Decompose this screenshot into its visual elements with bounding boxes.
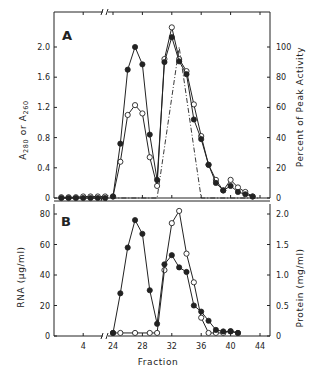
x-axis-label: Fraction (138, 357, 179, 367)
data-point (206, 330, 211, 335)
data-point (155, 183, 160, 188)
panel-b-right-ylabel: Protein (mg/ml) (295, 248, 305, 327)
x-tick-label: 28 (137, 342, 147, 351)
y-tick-label: 0 (45, 332, 50, 341)
data-point (132, 44, 137, 49)
data-point (228, 177, 233, 182)
data-point (147, 155, 152, 160)
data-point (199, 315, 204, 320)
y-tick-label: 1.2 (37, 103, 50, 112)
y-tick-label: 0.4 (37, 164, 50, 173)
y-tick-label: 20 (40, 302, 50, 311)
y-tick-label-right: 0.5 (276, 302, 289, 311)
data-point (235, 189, 240, 194)
panel-b-left-ylabel: RNA (μg/ml) (16, 246, 26, 307)
x-tick-label: 32 (167, 342, 177, 351)
panel-a-label: A (62, 28, 72, 43)
y-tick-label-right: 20 (276, 164, 286, 173)
data-point (162, 262, 167, 267)
data-point (73, 195, 78, 200)
data-point (221, 188, 226, 193)
data-point (88, 195, 93, 200)
data-point (103, 195, 108, 200)
x-tick-label: 36 (196, 342, 206, 351)
y-tick-label-right: 1.0 (276, 271, 289, 280)
data-point (228, 183, 233, 188)
x-tick-label: 4 (81, 342, 86, 351)
series-open (110, 208, 240, 335)
x-tick-label: 24 (108, 342, 118, 351)
x-tick-label: 44 (255, 342, 265, 351)
data-point (155, 321, 160, 326)
data-point (169, 253, 174, 258)
data-point (125, 67, 130, 72)
data-point (118, 291, 123, 296)
data-point (155, 330, 160, 335)
panel-a-right-ylabel: Percent of Peak Activity (295, 47, 305, 168)
data-point (110, 330, 115, 335)
plot-layer (59, 25, 260, 336)
data-point (206, 318, 211, 323)
data-point (213, 327, 218, 332)
data-point (213, 180, 218, 185)
data-point (169, 25, 174, 30)
data-point (140, 111, 145, 116)
data-point (177, 265, 182, 270)
data-point (95, 195, 100, 200)
data-point (184, 269, 189, 274)
data-point (191, 280, 196, 285)
y-tick-label-right: 0 (276, 194, 281, 203)
y-tick-label-right: 1.5 (276, 241, 289, 250)
data-point (177, 208, 182, 213)
data-point (59, 195, 64, 200)
data-point (81, 195, 86, 200)
data-point (191, 303, 196, 308)
y-tick-label: 2.0 (37, 43, 50, 52)
data-point (155, 177, 160, 182)
chromatography-figure: 00.40.81.21.62.002040608010002040608000.… (0, 0, 319, 377)
y-tick-label-right: 2.0 (276, 210, 289, 219)
data-point (206, 162, 211, 167)
data-point (199, 137, 204, 142)
series-filled (59, 35, 256, 201)
data-point (125, 245, 130, 250)
y-tick-label-right: 40 (276, 134, 286, 143)
y-tick-label: 0.8 (37, 134, 50, 143)
data-point (118, 330, 123, 335)
series-open (59, 25, 256, 200)
x-tick-label: 40 (226, 342, 236, 351)
data-point (177, 59, 182, 64)
data-point (169, 221, 174, 226)
y-tick-label: 1.6 (37, 73, 50, 82)
data-point (184, 251, 189, 256)
data-point (132, 103, 137, 108)
data-point (169, 35, 174, 40)
panel-b-label: B (61, 214, 71, 229)
data-point (147, 330, 152, 335)
series-filled (110, 218, 240, 336)
data-point (162, 60, 167, 65)
data-point (110, 194, 115, 199)
panel-a-left-ylabel: A280 or A260 (18, 100, 30, 159)
data-point (228, 329, 233, 334)
data-point (250, 194, 255, 199)
y-tick-label: 0 (45, 194, 50, 203)
y-tick-label-right: 0 (276, 332, 281, 341)
y-tick-label-right: 100 (276, 43, 291, 52)
y-tick-label-right: 80 (276, 73, 286, 82)
data-point (125, 112, 130, 117)
data-point (221, 329, 226, 334)
y-tick-label-right: 60 (276, 103, 286, 112)
data-point (147, 132, 152, 137)
data-point (235, 330, 240, 335)
data-point (191, 117, 196, 122)
y-tick-label: 60 (40, 241, 50, 250)
data-point (118, 141, 123, 146)
data-point (243, 192, 248, 197)
data-point (147, 288, 152, 293)
data-point (132, 218, 137, 223)
data-point (199, 309, 204, 314)
data-point (140, 231, 145, 236)
data-point (184, 72, 189, 77)
y-tick-label: 80 (40, 210, 50, 219)
